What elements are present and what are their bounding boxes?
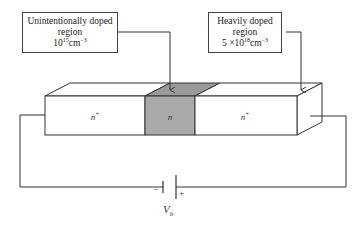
battery-plus-sign: +	[179, 188, 184, 198]
callout-arrow-unintentional	[118, 32, 170, 90]
callout-unintentional-line1: Unintentionally doped	[23, 16, 117, 27]
callout-unintentional-line2: region	[23, 27, 117, 38]
callout-heavy-line1: Heavily doped	[209, 16, 281, 27]
callout-arrow-heavy	[286, 32, 301, 90]
callout-unintentionally-doped: Unintentionally doped region 1015cm−3	[22, 12, 118, 53]
bias-voltage-label: Vb	[163, 203, 173, 218]
region-label-middle-n: n	[168, 112, 173, 122]
region-label-left-n-plus: n+	[91, 112, 100, 122]
callout-heavy-value: 5 ×1018cm−3	[209, 38, 281, 49]
callout-heavily-doped: Heavily doped region 5 ×1018cm−3	[208, 12, 282, 53]
callout-unintentional-value: 1015cm−3	[23, 38, 117, 49]
battery-minus-sign: −	[153, 184, 158, 194]
region-label-right-n-plus: n+	[241, 112, 250, 122]
